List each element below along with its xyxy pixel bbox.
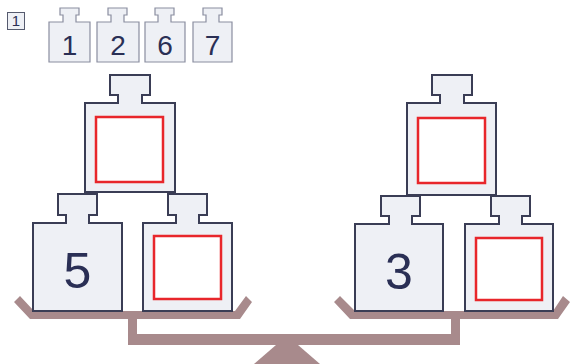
right-bottom-right-weight bbox=[465, 196, 553, 311]
weight-option-label: 6 bbox=[157, 30, 173, 61]
scale-diagram: .w { fill:#eef0f5; stroke:#3a3d55; strok… bbox=[0, 0, 574, 364]
balance-puzzle: 1 .w { fill:#eef0f5; stroke:#3a3d55; str… bbox=[0, 0, 574, 364]
fulcrum bbox=[254, 345, 320, 364]
answer-box-right-bottom[interactable] bbox=[476, 238, 542, 300]
weight-option-2[interactable]: 2 bbox=[97, 8, 139, 62]
weight-option-label: 2 bbox=[110, 30, 126, 61]
left-bottom-left-weight: 5 bbox=[33, 194, 122, 311]
right-top-weight bbox=[407, 75, 496, 195]
beam bbox=[128, 334, 460, 345]
answer-box-right-top[interactable] bbox=[418, 118, 485, 183]
weight-option-label: 7 bbox=[205, 30, 221, 61]
weight-value: 5 bbox=[64, 243, 92, 299]
answer-box-left-bottom[interactable] bbox=[154, 236, 221, 299]
weight-option-7[interactable]: 7 bbox=[193, 8, 232, 62]
right-bottom-left-weight: 3 bbox=[355, 196, 443, 311]
left-top-weight bbox=[85, 75, 175, 192]
weight-option-label: 1 bbox=[62, 30, 78, 61]
weight-option-6[interactable]: 6 bbox=[145, 8, 185, 62]
weight-option-1[interactable]: 1 bbox=[49, 8, 90, 62]
left-bottom-right-weight bbox=[143, 194, 232, 311]
weight-value: 3 bbox=[385, 244, 413, 300]
answer-box-left-top[interactable] bbox=[96, 117, 163, 182]
